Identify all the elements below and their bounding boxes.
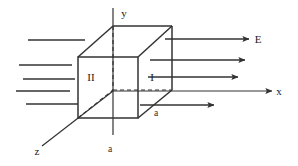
side-length-right-label: a	[154, 108, 159, 118]
face-one-label: I	[150, 71, 154, 83]
figure-canvas: y x z II I a a E	[0, 0, 298, 166]
physics-figure-cube-electric-flux: y x z II I a a E	[0, 0, 298, 166]
cube-edge-top-left-connector	[78, 26, 113, 57]
outgoing-field-arrows-group	[140, 39, 249, 105]
cube-edge-top-right-connector	[138, 26, 172, 57]
electric-field-label: E	[255, 33, 262, 45]
incoming-field-lines-group	[16, 40, 85, 104]
cube-front-face	[78, 57, 138, 118]
z-axis-label: z	[35, 145, 40, 157]
y-axis-label: y	[121, 7, 127, 19]
side-length-bottom-label: a	[108, 144, 113, 154]
face-two-label: II	[87, 71, 95, 83]
x-axis-label: x	[276, 85, 282, 97]
